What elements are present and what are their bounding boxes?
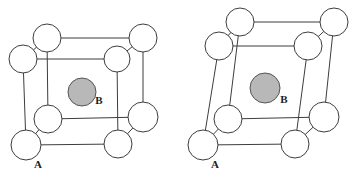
unit-cell-pair-diagram: ABAB: [0, 0, 354, 175]
atom-a-front-top-right: [104, 46, 130, 72]
atom-b-center: [250, 73, 280, 103]
atom-a-back-top-left: [226, 8, 254, 36]
label-site-a: A: [211, 158, 219, 170]
label-site-b: B: [95, 94, 103, 106]
label-site-a: A: [34, 158, 42, 170]
lattice-edge-6: [295, 46, 308, 144]
atom-a-front-bottom-left: [11, 130, 41, 160]
atom-a-front-bottom-right: [104, 130, 132, 158]
unit-cell-canvas: ABAB: [0, 0, 354, 175]
atom-a-front-top-left: [9, 45, 37, 73]
unit-cell-cubic-cell: AB: [9, 24, 158, 170]
label-site-b: B: [280, 93, 288, 105]
atom-a-back-bottom-left: [34, 105, 62, 133]
atom-a-back-bottom-left: [214, 105, 242, 133]
atom-a-front-bottom-right: [281, 130, 309, 158]
atom-a-front-bottom-left: [188, 130, 218, 160]
unit-cell-distorted-cell: AB: [188, 8, 348, 170]
atom-a-back-top-right: [129, 24, 157, 52]
atom-a-back-bottom-right: [309, 102, 339, 132]
atom-a-back-top-left: [33, 24, 61, 52]
atom-a-front-top-left: [205, 32, 233, 60]
atom-a-front-top-right: [294, 32, 322, 60]
atom-a-back-bottom-right: [128, 102, 158, 132]
atom-b-center: [68, 78, 96, 106]
atom-a-back-top-right: [320, 8, 348, 36]
